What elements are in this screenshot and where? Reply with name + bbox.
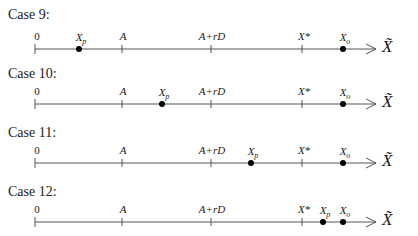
tick-xp: Xp xyxy=(320,204,331,219)
tick-a: A xyxy=(120,85,127,97)
tick-xstar: X* xyxy=(298,203,310,215)
tick-xp: Xp xyxy=(76,31,87,46)
tick-xp: Xp xyxy=(248,145,259,160)
case-11-title: Case 11: xyxy=(8,125,56,141)
number-line-case-12: 0 A A+rD X* Xp Xo X̃ xyxy=(0,203,418,236)
tick-a-plus-rd: A+rD xyxy=(199,85,225,97)
axis-name-xtilde: X̃ xyxy=(382,92,392,112)
tick-xo: Xo xyxy=(340,145,351,160)
case-12-title: Case 12: xyxy=(8,184,57,200)
case-9-title: Case 9: xyxy=(8,7,50,23)
xp-dot xyxy=(320,219,326,225)
xp-dot xyxy=(159,101,165,107)
tick-zero: 0 xyxy=(34,144,40,156)
tick-a-plus-rd: A+rD xyxy=(199,30,225,42)
number-line-case-10: 0 A Xp A+rD X* Xo X̃ xyxy=(0,85,418,125)
tick-xstar: X* xyxy=(298,85,310,97)
axis-name-xtilde: X̃ xyxy=(382,37,392,57)
xo-dot xyxy=(340,219,346,225)
tick-a: A xyxy=(120,30,127,42)
tick-a-plus-rd: A+rD xyxy=(199,144,225,156)
tick-a: A xyxy=(120,203,127,215)
tick-xp: Xp xyxy=(159,86,170,101)
tick-zero: 0 xyxy=(34,85,40,97)
axis-name-xtilde: X̃ xyxy=(382,210,392,230)
case-10-title: Case 10: xyxy=(8,66,57,82)
tick-zero: 0 xyxy=(34,203,40,215)
xp-dot xyxy=(248,160,254,166)
tick-zero: 0 xyxy=(34,30,40,42)
tick-xo: Xo xyxy=(340,204,351,219)
tick-xstar: X* xyxy=(298,30,310,42)
xo-dot xyxy=(340,46,346,52)
xo-dot xyxy=(340,101,346,107)
tick-xstar: X* xyxy=(298,144,310,156)
xo-dot xyxy=(340,160,346,166)
axis-name-xtilde: X̃ xyxy=(382,151,392,171)
tick-a: A xyxy=(120,144,127,156)
tick-xo: Xo xyxy=(340,31,351,46)
xp-dot xyxy=(76,46,82,52)
number-line-case-11: 0 A A+rD Xp X* Xo X̃ xyxy=(0,144,418,184)
tick-a-plus-rd: A+rD xyxy=(199,203,225,215)
tick-xo: Xo xyxy=(340,86,351,101)
number-line-case-9: 0 Xp A A+rD X* Xo X̃ xyxy=(0,30,418,70)
